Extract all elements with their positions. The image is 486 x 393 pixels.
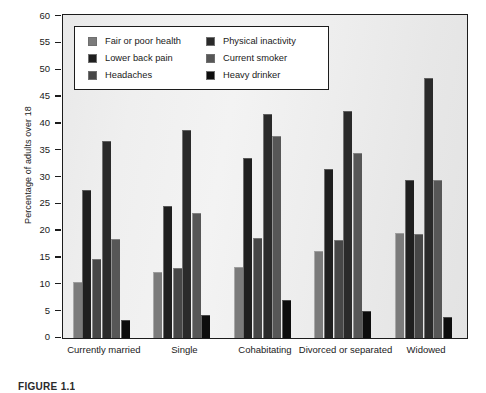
legend-swatch-icon (206, 71, 215, 80)
legend-swatch-icon (88, 71, 97, 80)
bar (182, 130, 191, 338)
bar (73, 282, 82, 338)
bar (353, 153, 362, 338)
legend-swatch-icon (206, 37, 215, 46)
y-axis-tick (55, 229, 61, 230)
legend-swatch-icon (206, 54, 215, 63)
y-axis-tick (55, 203, 61, 204)
y-axis-tick-label: 30 (24, 172, 50, 182)
bar (272, 136, 281, 338)
y-axis-tick (55, 283, 61, 284)
bar (192, 213, 201, 339)
y-axis-tick-label: 35 (24, 145, 50, 155)
bar (243, 158, 252, 338)
bar (253, 238, 262, 338)
bar (424, 78, 433, 338)
y-axis-tick (55, 256, 61, 257)
y-axis-tick (55, 122, 61, 123)
legend-item: Lower back pain (88, 50, 181, 67)
y-axis-tick-label: 25 (24, 198, 50, 208)
y-axis-tick-label: 50 (24, 64, 50, 74)
y-axis-tick (55, 337, 61, 338)
bar (405, 180, 414, 338)
bar (121, 320, 130, 338)
y-axis-tick-label: 55 (24, 37, 50, 47)
x-axis-category-label: Widowed (371, 344, 481, 356)
legend-swatch-icon (88, 37, 97, 46)
y-axis-tick-label: 0 (24, 332, 50, 342)
bar (102, 141, 111, 338)
bar (163, 206, 172, 338)
bar (111, 239, 120, 338)
bar (201, 315, 210, 338)
y-axis-tick-label: 10 (24, 279, 50, 289)
y-axis-tick (55, 42, 61, 43)
y-axis-tick-label: 60 (24, 11, 50, 21)
chart-legend: Fair or poor healthLower back painHeadac… (74, 26, 329, 90)
figure-container: Percentage of adults over 18 60555045403… (0, 0, 486, 393)
bar (362, 311, 371, 338)
bar (443, 317, 452, 338)
legend-swatch-icon (88, 54, 97, 63)
y-axis-tick (55, 95, 61, 96)
bar (234, 267, 243, 338)
y-axis-tick (55, 15, 61, 16)
legend-item-label: Physical inactivity (223, 37, 296, 46)
y-axis-tick-label: 15 (24, 252, 50, 262)
bar (395, 233, 404, 338)
bar (433, 180, 442, 338)
bar (153, 272, 162, 339)
legend-item-label: Current smoker (223, 54, 287, 63)
bar (334, 240, 343, 338)
legend-column-left: Fair or poor healthLower back painHeadac… (88, 33, 181, 84)
y-axis-tick-label: 20 (24, 225, 50, 235)
bar (314, 251, 323, 338)
bar (263, 114, 272, 338)
y-axis-tick (55, 310, 61, 311)
bar (414, 234, 423, 338)
figure-caption: FIGURE 1.1 (18, 381, 75, 393)
y-axis-tick-label: 45 (24, 91, 50, 101)
bar (92, 259, 101, 338)
bar (173, 268, 182, 338)
y-axis-tick-label: 40 (24, 118, 50, 128)
legend-item-label: Lower back pain (105, 54, 173, 63)
legend-item: Current smoker (206, 50, 296, 67)
legend-item-label: Heavy drinker (223, 71, 280, 80)
legend-item: Fair or poor health (88, 33, 181, 50)
y-axis-tick (55, 149, 61, 150)
y-axis-tick (55, 176, 61, 177)
bar (82, 190, 91, 338)
legend-column-right: Physical inactivityCurrent smokerHeavy d… (206, 33, 296, 84)
legend-item: Physical inactivity (206, 33, 296, 50)
legend-item-label: Fair or poor health (105, 37, 181, 46)
bar (282, 300, 291, 338)
y-axis-tick (55, 69, 61, 70)
legend-item: Headaches (88, 67, 181, 84)
bar (324, 169, 333, 338)
y-axis-tick-label: 5 (24, 306, 50, 316)
legend-item: Heavy drinker (206, 67, 296, 84)
bar (343, 111, 352, 338)
bar-group (395, 15, 452, 338)
legend-item-label: Headaches (105, 71, 152, 80)
